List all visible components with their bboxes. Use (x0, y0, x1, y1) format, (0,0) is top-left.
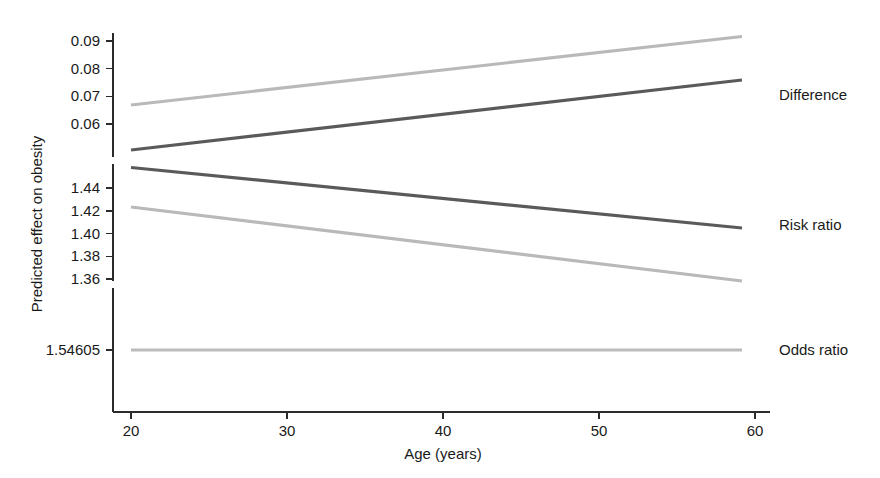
x-tick-label-60: 60 (747, 422, 764, 439)
y-tick-label-1.44: 1.44 (71, 179, 100, 196)
y-tick-label-0.08: 0.08 (71, 60, 100, 77)
series-line-difference-lower (131, 80, 742, 150)
y-tick-label-0.07: 0.07 (71, 87, 100, 104)
y-ticks-risk-ratio (106, 188, 113, 279)
y-tick-label-1.38: 1.38 (71, 247, 100, 264)
chart-canvas: 0.09 0.08 0.07 0.06 1.44 1.42 1.40 1.38 … (0, 0, 880, 478)
x-tick-label-30: 30 (279, 422, 296, 439)
x-tick-label-50: 50 (591, 422, 608, 439)
y-tick-label-1.54605: 1.54605 (46, 341, 100, 358)
x-tick-label-40: 40 (435, 422, 452, 439)
series-line-difference-upper (131, 37, 742, 106)
y-tick-label-1.36: 1.36 (71, 270, 100, 287)
y-tick-label-1.42: 1.42 (71, 202, 100, 219)
y-tick-label-0.06: 0.06 (71, 115, 100, 132)
y-tick-label-0.09: 0.09 (71, 32, 100, 49)
series-label-odds-ratio: Odds ratio (779, 341, 848, 358)
y-tick-label-1.40: 1.40 (71, 225, 100, 242)
x-axis (113, 412, 770, 419)
x-tick-label-20: 20 (123, 422, 140, 439)
line-chart-svg: 0.09 0.08 0.07 0.06 1.44 1.42 1.40 1.38 … (0, 0, 880, 478)
series-label-difference: Difference (779, 86, 847, 103)
y-axis-title: Predicted effect on obesity (28, 135, 45, 312)
series-label-risk-ratio: Risk ratio (779, 216, 842, 233)
y-ticks-difference (106, 41, 113, 124)
x-axis-title: Age (years) (404, 445, 482, 462)
